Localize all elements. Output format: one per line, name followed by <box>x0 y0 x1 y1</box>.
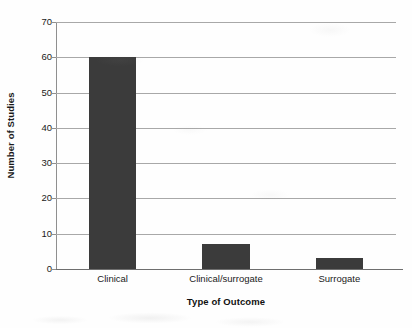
bar-slot <box>283 22 396 269</box>
y-tick-label: 10 <box>26 229 52 239</box>
bar-slot <box>169 22 282 269</box>
y-tick-mark <box>51 234 56 235</box>
y-tick-mark <box>51 57 56 58</box>
bars-layer <box>56 22 396 269</box>
y-tick-label: 70 <box>26 17 52 27</box>
y-tick-label: 50 <box>26 88 52 98</box>
x-tick-label: Surrogate <box>283 274 396 284</box>
bar[interactable] <box>89 57 137 269</box>
y-tick-mark <box>51 163 56 164</box>
y-tick-mark <box>51 22 56 23</box>
x-tick-label: Clinical/surrogate <box>169 274 282 284</box>
bar[interactable] <box>316 258 364 269</box>
y-axis-tick-labels: 010203040506070 <box>22 0 52 328</box>
x-axis-tick-labels: ClinicalClinical/surrogateSurrogate <box>56 274 396 284</box>
y-tick-label: 40 <box>26 123 52 133</box>
y-axis-title-label: Number of Studies <box>5 92 16 178</box>
bar-chart-figure: Number of Studies 010203040506070 Clinic… <box>0 0 412 328</box>
y-tick-mark <box>51 128 56 129</box>
y-tick-mark <box>51 93 56 94</box>
y-tick-label: 30 <box>26 158 52 168</box>
bar-slot <box>56 22 169 269</box>
x-tick-label: Clinical <box>56 274 169 284</box>
y-tick-label: 60 <box>26 53 52 63</box>
x-axis-title: Type of Outcome <box>56 296 396 307</box>
y-tick-label: 20 <box>26 194 52 204</box>
y-tick-mark <box>51 269 56 270</box>
y-tick-label: 0 <box>26 264 52 274</box>
y-axis-title: Number of Studies <box>0 0 20 270</box>
bar[interactable] <box>202 244 250 269</box>
x-axis-line <box>56 269 403 270</box>
y-tick-mark <box>51 198 56 199</box>
